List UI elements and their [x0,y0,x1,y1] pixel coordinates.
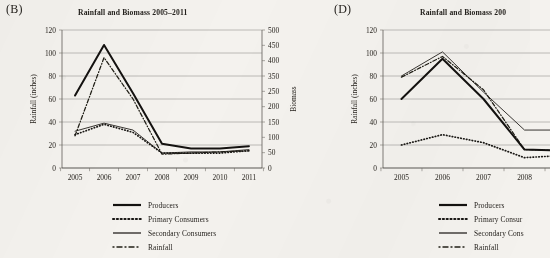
plot-area-d: 020406080100120Rainfall (inches)20052006… [320,0,550,200]
y-axis-left-title: Rainfall (inches) [350,74,359,124]
series-line-producers [401,59,550,151]
y-axis-left-tick-label: 20 [370,141,378,150]
y-axis-left-tick-label: 80 [370,72,378,81]
legend-d: Producers Primary Consur Secondary Cons … [438,198,524,254]
x-axis-tick-label: 2008 [155,173,170,182]
line-chart-b: 020406080100120Rainfall (inches)05010015… [0,0,320,200]
y-axis-right-tick-label: 100 [268,133,279,142]
x-axis-tick-label: 2008 [517,173,532,182]
y-axis-left-tick-label: 40 [49,118,57,127]
plot-area-b: 020406080100120Rainfall (inches)05010015… [0,0,320,200]
y-axis-left-tick-label: 20 [49,141,57,150]
y-axis-left-tick-label: 120 [45,26,56,35]
x-axis-tick-label: 2011 [242,173,257,182]
series-line-primary-consumers [401,135,550,158]
legend-swatch-dash-dot-icon [112,242,142,252]
x-axis-tick-label: 2005 [394,173,409,182]
y-axis-right-tick-label: 400 [268,56,279,65]
y-axis-right-title: Biomass [289,86,298,112]
series-line-producers [75,45,249,149]
x-axis-tick-label: 2009 [184,173,199,182]
legend-label-primary-consumers: Primary Consumers [148,215,209,224]
x-axis-tick-label: 2006 [97,173,112,182]
y-axis-left-tick-label: 80 [49,72,57,81]
y-axis-left-tick-label: 100 [45,49,56,58]
legend-item-secondary-consumers: Secondary Cons [438,226,524,240]
y-axis-right-tick-label: 500 [268,26,279,35]
y-axis-right-tick-label: 450 [268,41,279,50]
legend-swatch-solid-thick-icon [112,200,142,210]
legend-item-secondary-consumers: Secondary Consumers [112,226,216,240]
legend-label-producers: Producers [474,201,504,210]
y-axis-right-tick-label: 50 [268,148,276,157]
legend-label-producers: Producers [148,201,178,210]
y-axis-right-tick-label: 0 [268,164,272,173]
y-axis-left-title: Rainfall (inches) [29,74,38,124]
x-axis-tick-label: 2010 [213,173,228,182]
legend-item-rainfall: Rainfall [438,240,524,254]
legend-swatch-dotted-icon [112,214,142,224]
legend-item-rainfall: Rainfall [112,240,216,254]
y-axis-left-tick-label: 0 [52,164,56,173]
legend-b: Producers Primary Consumers Secondary Co… [112,198,216,254]
legend-label-primary-consumers: Primary Consur [474,215,522,224]
legend-swatch-dotted-icon [438,214,468,224]
y-axis-left-tick-label: 100 [366,49,377,58]
x-axis-tick-label: 2005 [68,173,83,182]
legend-item-primary-consumers: Primary Consur [438,212,524,226]
y-axis-left-tick-label: 60 [370,95,378,104]
legend-label-rainfall: Rainfall [148,243,173,252]
y-axis-left-tick-label: 60 [49,95,57,104]
y-axis-right-tick-label: 350 [268,72,279,81]
x-axis-tick-label: 2006 [435,173,450,182]
legend-swatch-dash-dot-icon [438,242,468,252]
legend-label-secondary-consumers: Secondary Cons [474,229,524,238]
legend-label-rainfall: Rainfall [474,243,499,252]
y-axis-left-tick-label: 0 [373,164,377,173]
y-axis-right-tick-label: 150 [268,118,279,127]
figure-panel-d: (D) Rainfall and Biomass 200 02040608010… [320,0,550,258]
y-axis-left-tick-label: 120 [366,26,377,35]
legend-label-secondary-consumers: Secondary Consumers [148,229,216,238]
legend-item-producers: Producers [438,198,524,212]
x-axis-tick-label: 2007 [126,173,141,182]
legend-item-producers: Producers [112,198,216,212]
series-line-rainfall [401,56,550,150]
legend-swatch-solid-thin-icon [438,228,468,238]
series-line-rainfall [75,58,249,155]
y-axis-right-tick-label: 200 [268,102,279,111]
legend-item-primary-consumers: Primary Consumers [112,212,216,226]
figure-panel-b: (B) Rainfall and Biomass 2005–2011 02040… [0,0,320,258]
y-axis-right-tick-label: 250 [268,87,279,96]
legend-swatch-solid-thick-icon [438,200,468,210]
line-chart-d: 020406080100120Rainfall (inches)20052006… [320,0,550,200]
legend-swatch-solid-thin-icon [112,228,142,238]
y-axis-left-tick-label: 40 [370,118,378,127]
x-axis-tick-label: 2007 [476,173,491,182]
